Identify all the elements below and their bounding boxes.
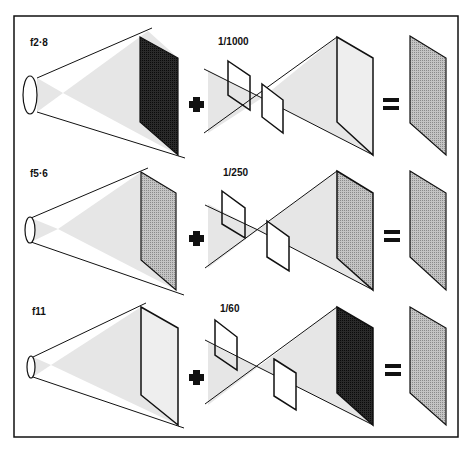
result-exposure — [410, 36, 446, 155]
exposure-diagram — [0, 0, 468, 453]
row-1 — [23, 28, 446, 158]
row-3 — [27, 303, 446, 428]
aperture-label-3: f11 — [32, 306, 46, 317]
equals-sign-3 — [385, 364, 401, 376]
lens-icon — [27, 356, 35, 378]
row-2 — [25, 168, 446, 295]
plus-sign-2 — [189, 231, 204, 246]
shutter-label-1: 1/1000 — [218, 36, 249, 47]
aperture-f11 — [27, 303, 184, 428]
equals-sign-2 — [384, 230, 400, 242]
result-exposure — [410, 307, 446, 425]
lens-icon — [25, 217, 35, 243]
plus-sign-1 — [189, 97, 204, 112]
plus-sign-3 — [189, 370, 204, 385]
shutter-1-60 — [205, 307, 373, 425]
result-exposure — [410, 171, 446, 290]
shutter-1-250 — [205, 171, 373, 290]
aperture-label-2: f5·6 — [30, 168, 48, 179]
lens-icon — [23, 76, 37, 114]
shutter-label-2: 1/250 — [223, 167, 248, 178]
aperture-label-1: f2·8 — [30, 37, 48, 48]
shutter-label-3: 1/60 — [220, 303, 239, 314]
shutter-1-1000 — [204, 37, 373, 155]
equals-sign-1 — [383, 98, 399, 110]
aperture-f5-6 — [25, 168, 184, 295]
